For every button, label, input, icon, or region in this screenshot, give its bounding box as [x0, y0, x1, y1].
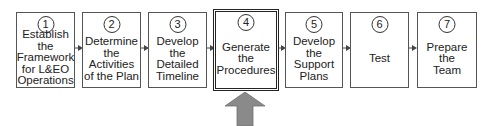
step-label-7: Prepare the Team	[418, 33, 476, 85]
step-label-4: Generate the Procedures	[216, 32, 276, 86]
step-box-1: 1 Establish the Framework for L&EO Opera…	[16, 12, 75, 88]
step-label-2: Determine the Activities of the Plan	[83, 33, 140, 85]
up-arrow-icon	[224, 92, 266, 126]
step-number-2: 2	[103, 16, 120, 33]
step-number-7: 7	[439, 16, 456, 33]
step-box-5: 5 Develop the Support Plans	[285, 12, 343, 88]
step-number-4: 4	[238, 14, 255, 31]
step-label-3: Develop the Detailed Timeline	[149, 33, 206, 85]
arrow-right-icon	[409, 44, 417, 52]
step-label-5: Develop the Support Plans	[286, 33, 342, 85]
step-box-6: 6 Test	[350, 12, 409, 88]
step-box-4-highlighted: 4 Generate the Procedures	[213, 9, 279, 91]
step-number-3: 3	[169, 16, 186, 33]
step-box-2: 2 Determine the Activities of the Plan	[82, 12, 141, 88]
step-label-6: Test	[351, 33, 408, 85]
step-box-3: 3 Develop the Detailed Timeline	[148, 12, 207, 88]
step-number-5: 5	[306, 16, 323, 33]
step-number-6: 6	[371, 16, 388, 33]
step-label-1: Establish the Framework for L&EO Operati…	[17, 31, 74, 85]
step-box-7: 7 Prepare the Team	[417, 12, 477, 88]
